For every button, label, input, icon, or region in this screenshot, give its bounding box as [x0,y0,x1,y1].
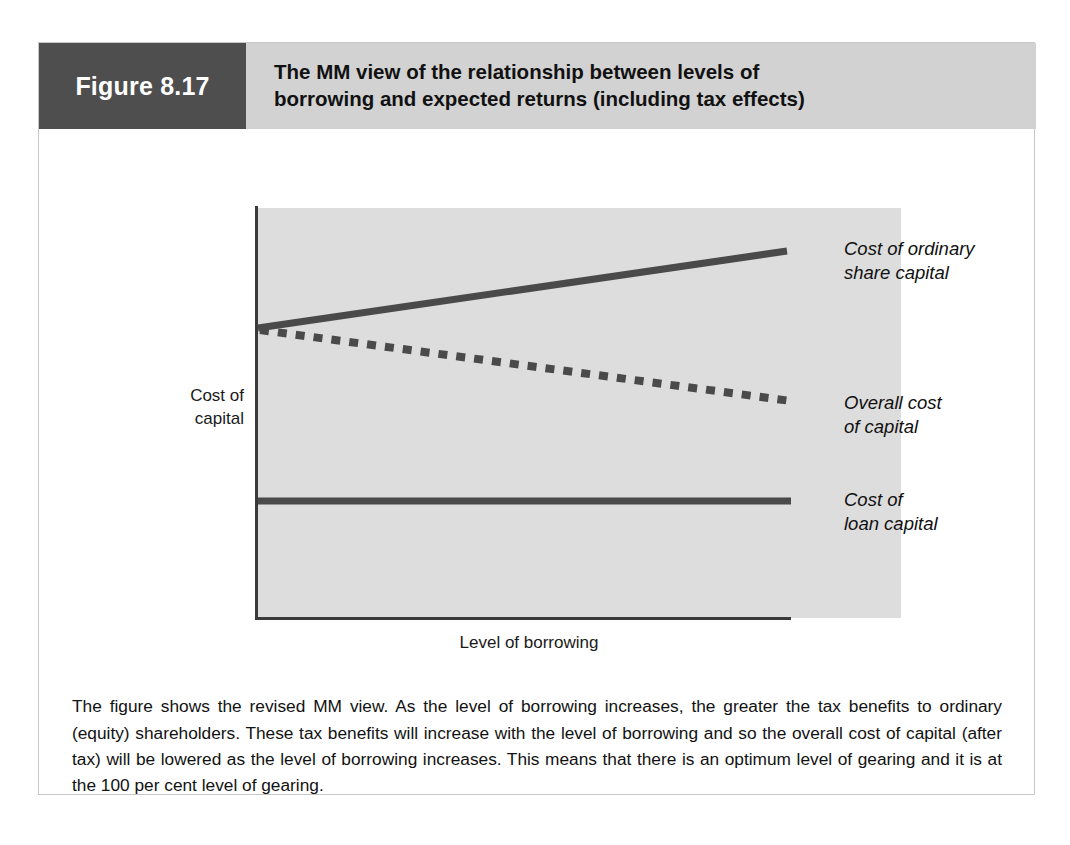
figure-box: Figure 8.17 The MM view of the relations… [38,42,1035,795]
y-axis-label-line-2: capital [99,408,244,431]
series-label-line-2: share capital [844,261,975,285]
series-label-line-1: Cost of [844,488,938,512]
y-axis-label: Cost of capital [99,385,244,431]
series-label-line-2: loan capital [844,512,938,536]
series-label-line-1: Cost of ordinary [844,237,975,261]
series-label-line-2: of capital [844,415,942,439]
series-label-cost-of-loan-capital: Cost of loan capital [844,488,938,537]
y-axis-label-line-1: Cost of [99,385,244,408]
series-line-cost-of-ordinary-share-capital [258,251,787,328]
series-line-overall-cost-of-capital [260,330,791,401]
series-label-line-1: Overall cost [844,391,942,415]
figure-header: Figure 8.17 The MM view of the relations… [39,43,1036,129]
figure-title: The MM view of the relationship between … [274,59,805,112]
figure-title-line-2: borrowing and expected returns (includin… [274,86,805,113]
figure-caption: The figure shows the revised MM view. As… [72,693,1002,798]
figure-title-block: The MM view of the relationship between … [246,43,1036,129]
chart-area: Cost of capital Level of borrowing Cost … [39,129,1036,669]
series-label-overall-cost-of-capital: Overall cost of capital [844,391,942,440]
x-axis-label: Level of borrowing [319,632,739,655]
figure-title-line-1: The MM view of the relationship between … [274,59,805,86]
series-label-cost-of-ordinary-share-capital: Cost of ordinary share capital [844,237,975,286]
figure-number-block: Figure 8.17 [39,43,246,129]
figure-number: Figure 8.17 [75,72,209,101]
